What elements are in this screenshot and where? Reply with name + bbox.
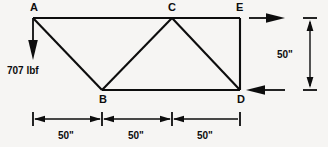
node-label-C: C [168,1,176,13]
node-label-D: D [237,93,245,105]
node-label-E: E [236,1,243,13]
vertical-dim-label: 50" [277,49,293,60]
horizontal-dim-label-A-B: 50" [58,130,74,141]
horizontal-dim-label-C-D: 50" [197,130,213,141]
diagram-background [0,0,328,147]
applied-load-label: 707 lbf [7,65,39,76]
node-label-A: A [30,1,38,13]
horizontal-dim-label-B-C: 50" [128,130,144,141]
truss-diagram: A B C D E 707 lbf 50" [0,0,328,147]
node-label-B: B [99,93,107,105]
